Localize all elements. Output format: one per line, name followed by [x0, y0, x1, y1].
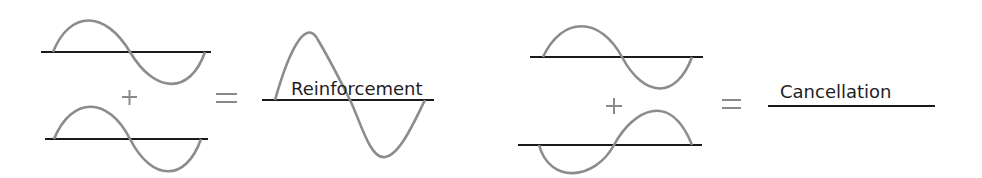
- wave-b-left: [45, 107, 208, 172]
- cancellation-label: Cancellation: [780, 83, 892, 101]
- equals-operator-left: [216, 94, 237, 102]
- plus-operator-right: [606, 98, 622, 114]
- reinforcement-label: Reinforcement: [291, 80, 423, 98]
- wave-b-right: [518, 111, 702, 173]
- wave-a-right: [530, 26, 703, 88]
- wave-a-left: [41, 21, 211, 84]
- plus-operator-left: [122, 90, 137, 105]
- equals-operator-right: [722, 100, 741, 108]
